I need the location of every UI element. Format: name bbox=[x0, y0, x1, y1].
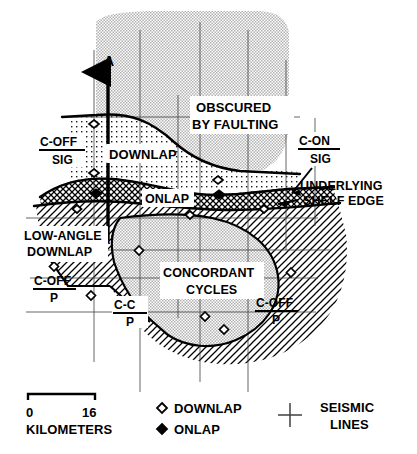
facies-code-numerator: C-OFF bbox=[34, 274, 71, 288]
facies-code-denominator: SIG bbox=[310, 152, 331, 166]
legend-downlap-label: DOWNLAP bbox=[174, 401, 242, 416]
concordant-line-1: CONCORDANT bbox=[163, 266, 255, 280]
facies-code-denominator: P bbox=[50, 291, 58, 305]
obscured-by-faulting-label: OBSCURED BY FAULTING bbox=[190, 96, 294, 134]
concordant-line-2: CYCLES bbox=[186, 283, 237, 297]
section-label-a: A bbox=[104, 53, 114, 69]
facies-code-numerator: C-OFF bbox=[256, 296, 293, 310]
onlap-label-text: ONLAP bbox=[145, 192, 189, 206]
scale-min-label: 0 bbox=[26, 405, 33, 420]
facies-code-denominator: P bbox=[272, 313, 280, 327]
low-angle-downlap-label: LOW-ANGLE DOWNLAP bbox=[22, 226, 108, 262]
facies-code-c-off-sig: C-OFF SIG bbox=[38, 133, 86, 167]
facies-code-numerator: C-OFF bbox=[40, 135, 77, 149]
facies-code-denominator: P bbox=[126, 315, 134, 329]
downlap-label-text: DOWNLAP bbox=[109, 147, 177, 162]
scale-units-label: KILOMETERS bbox=[26, 422, 112, 437]
scale-max-label: 16 bbox=[82, 405, 97, 420]
legend-onlap-label: ONLAP bbox=[174, 422, 220, 437]
facies-code-c-c-p: C-C P bbox=[112, 296, 148, 329]
downlap-area-label: DOWNLAP bbox=[106, 144, 177, 163]
obscured-line-1: OBSCURED bbox=[196, 100, 271, 115]
concordant-cycles-label: CONCORDANT CYCLES bbox=[160, 262, 264, 299]
seismic-facies-map: A A' OBSCURED BY FAULTING bbox=[0, 0, 417, 454]
obscured-line-2: BY FAULTING bbox=[192, 117, 279, 132]
legend-seismic-line-1: SEISMIC bbox=[320, 400, 375, 415]
facies-code-numerator: C-C bbox=[114, 298, 136, 312]
facies-code-denominator: SIG bbox=[52, 153, 73, 167]
low-angle-line-2: DOWNLAP bbox=[27, 245, 92, 259]
shelf-edge-line-2: SHELF EDGE bbox=[303, 194, 384, 208]
legend-seismic-line-2: LINES bbox=[330, 417, 369, 432]
facies-code-numerator: C-ON bbox=[299, 134, 330, 148]
onlap-area-label: ONLAP bbox=[142, 189, 194, 207]
shelf-edge-line-1: UNDERLYING bbox=[300, 179, 383, 193]
low-angle-line-1: LOW-ANGLE bbox=[24, 229, 102, 243]
